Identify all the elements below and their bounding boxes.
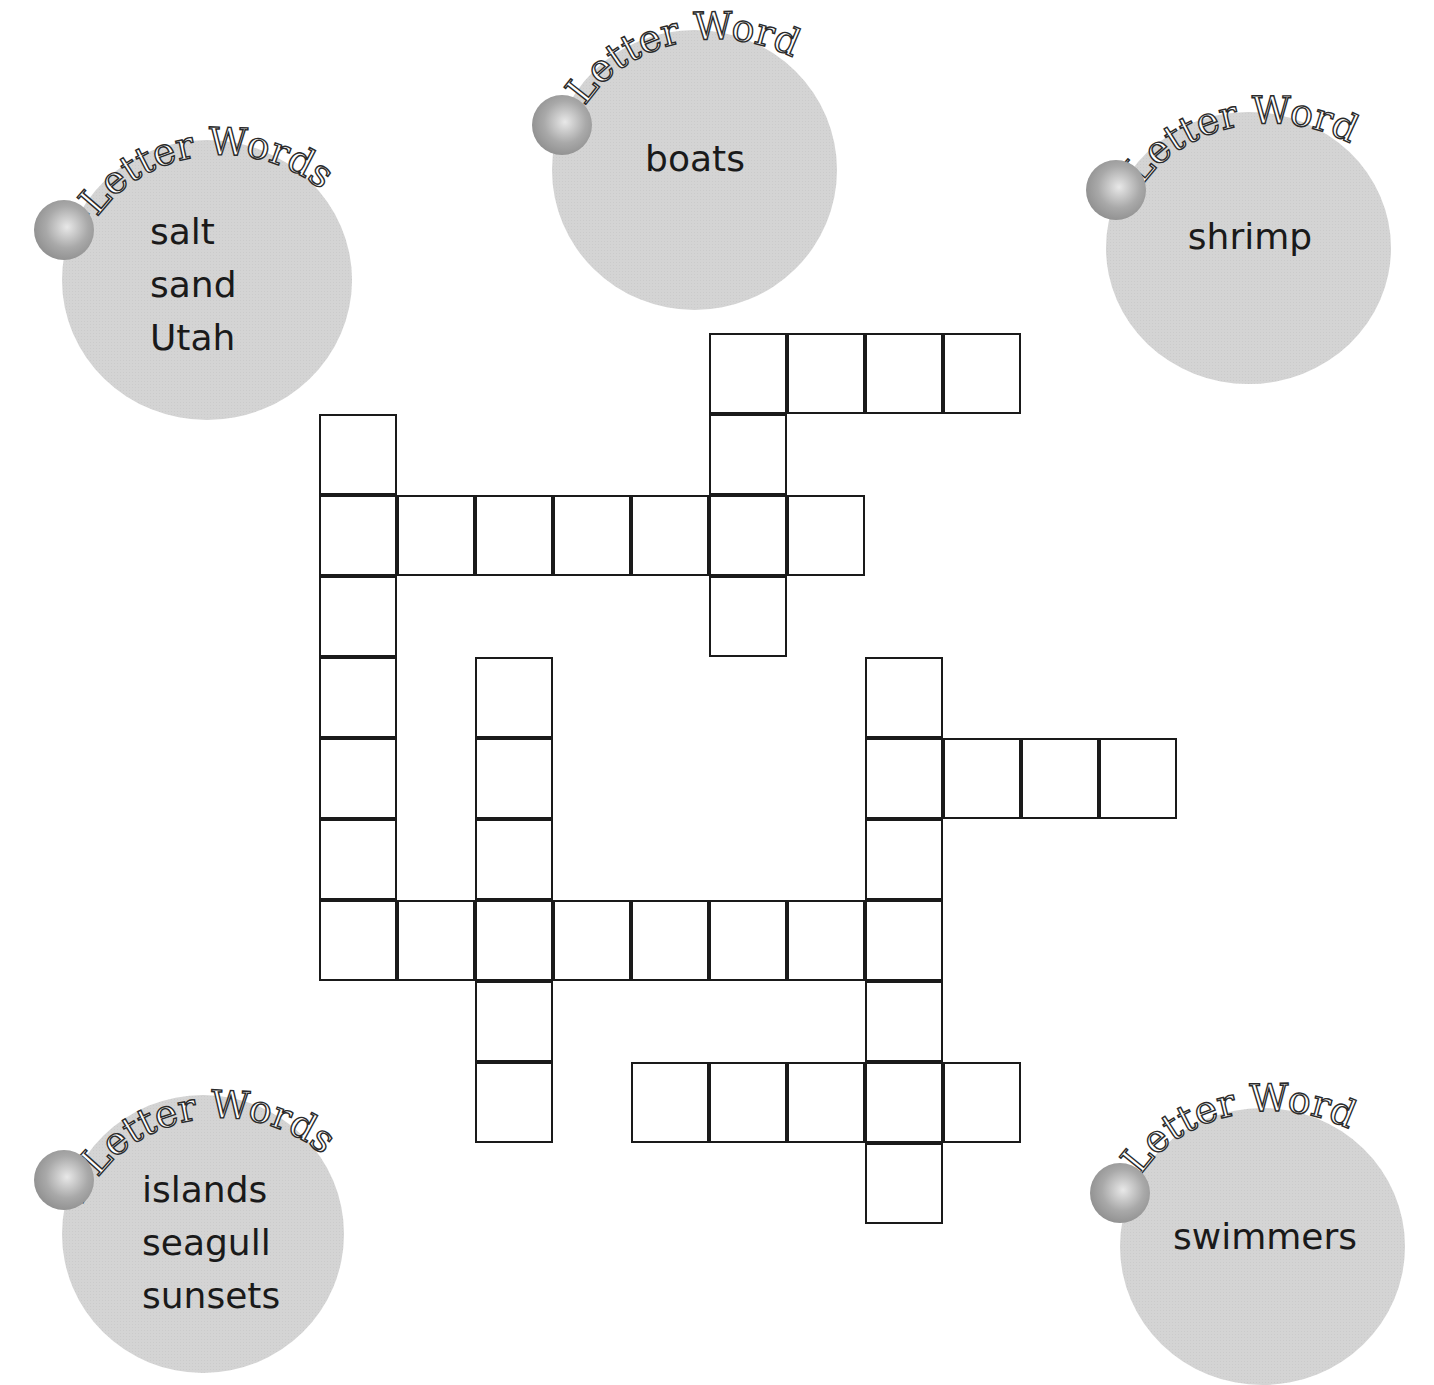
crossword-cell[interactable] xyxy=(319,657,397,738)
crossword-grid xyxy=(0,0,1434,1385)
crossword-cell[interactable] xyxy=(475,819,553,900)
crossword-cell[interactable] xyxy=(787,495,865,576)
crossword-cell[interactable] xyxy=(943,738,1021,819)
crossword-cell[interactable] xyxy=(319,414,397,495)
crossword-cell[interactable] xyxy=(1021,738,1099,819)
crossword-cell[interactable] xyxy=(631,495,709,576)
crossword-cell[interactable] xyxy=(865,1062,943,1143)
crossword-cell[interactable] xyxy=(475,981,553,1062)
crossword-cell[interactable] xyxy=(943,333,1021,414)
crossword-cell[interactable] xyxy=(709,1062,787,1143)
crossword-cell[interactable] xyxy=(319,495,397,576)
crossword-cell[interactable] xyxy=(397,900,475,981)
crossword-cell[interactable] xyxy=(865,1143,943,1224)
crossword-cell[interactable] xyxy=(865,819,943,900)
crossword-cell[interactable] xyxy=(475,900,553,981)
crossword-cell[interactable] xyxy=(865,657,943,738)
crossword-cell[interactable] xyxy=(553,900,631,981)
crossword-cell[interactable] xyxy=(319,819,397,900)
crossword-cell[interactable] xyxy=(475,495,553,576)
crossword-cell[interactable] xyxy=(865,738,943,819)
crossword-cell[interactable] xyxy=(397,495,475,576)
crossword-cell[interactable] xyxy=(787,1062,865,1143)
crossword-cell[interactable] xyxy=(709,495,787,576)
crossword-cell[interactable] xyxy=(475,657,553,738)
crossword-cell[interactable] xyxy=(319,738,397,819)
crossword-cell[interactable] xyxy=(865,900,943,981)
crossword-cell[interactable] xyxy=(319,576,397,657)
crossword-cell[interactable] xyxy=(1099,738,1177,819)
crossword-cell[interactable] xyxy=(553,495,631,576)
crossword-cell[interactable] xyxy=(631,1062,709,1143)
crossword-cell[interactable] xyxy=(709,333,787,414)
crossword-cell[interactable] xyxy=(631,900,709,981)
crossword-cell[interactable] xyxy=(709,414,787,495)
crossword-cell[interactable] xyxy=(475,1062,553,1143)
crossword-cell[interactable] xyxy=(787,333,865,414)
crossword-cell[interactable] xyxy=(319,900,397,981)
crossword-cell[interactable] xyxy=(787,900,865,981)
crossword-cell[interactable] xyxy=(865,981,943,1062)
crossword-cell[interactable] xyxy=(943,1062,1021,1143)
crossword-cell[interactable] xyxy=(709,900,787,981)
crossword-cell[interactable] xyxy=(475,738,553,819)
crossword-cell[interactable] xyxy=(709,576,787,657)
crossword-cell[interactable] xyxy=(865,333,943,414)
